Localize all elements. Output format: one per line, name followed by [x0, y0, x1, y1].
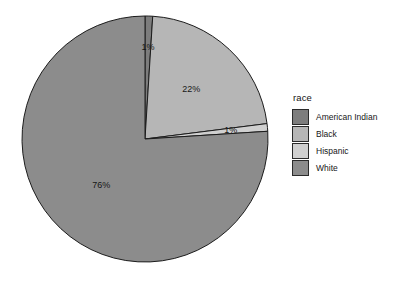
pie-label-white: 76% — [92, 180, 110, 190]
legend-item-black[interactable]: Black — [292, 125, 399, 142]
legend-swatch-icon — [292, 160, 309, 176]
legend-swatch-icon — [292, 143, 309, 159]
legend-item-label: American Indian — [316, 112, 377, 122]
pie-chart-figure: 1%22%1%76% race American IndianBlackHisp… — [0, 0, 399, 281]
legend-item-label: White — [316, 163, 338, 173]
pie-svg: 1%22%1%76% — [0, 0, 290, 281]
legend-item-label: Black — [316, 129, 337, 139]
pie-label-hispanic: 1% — [224, 125, 237, 135]
legend: race American IndianBlackHispanicWhite — [292, 92, 399, 176]
legend-items: American IndianBlackHispanicWhite — [292, 108, 399, 176]
pie-plot-area: 1%22%1%76% — [0, 0, 290, 281]
legend-item-hispanic[interactable]: Hispanic — [292, 142, 399, 159]
legend-title: race — [293, 92, 399, 103]
legend-swatch-icon — [292, 109, 309, 125]
legend-item-white[interactable]: White — [292, 159, 399, 176]
pie-label-black: 22% — [182, 84, 200, 94]
pie-slice-group — [22, 16, 268, 262]
pie-label-american-indian: 1% — [141, 42, 154, 52]
pie-slice-black[interactable] — [145, 16, 267, 139]
legend-item-american-indian[interactable]: American Indian — [292, 108, 399, 125]
legend-item-label: Hispanic — [316, 146, 349, 156]
legend-swatch-icon — [292, 126, 309, 142]
